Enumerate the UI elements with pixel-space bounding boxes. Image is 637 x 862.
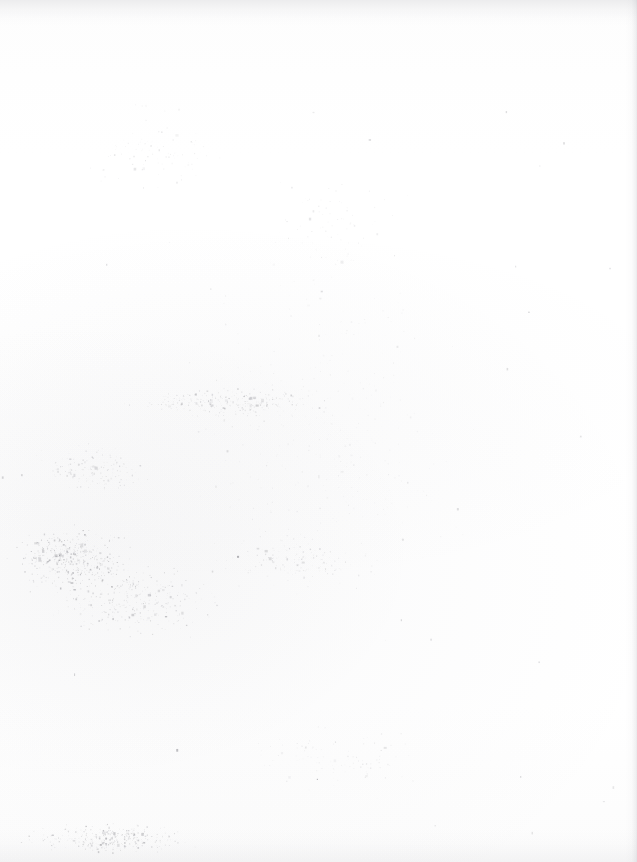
page-text-content <box>0 0 637 862</box>
scanned-page <box>0 0 637 862</box>
